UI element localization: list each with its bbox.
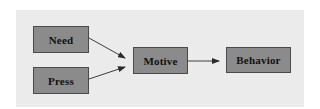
node-motive-label: Motive [143, 55, 177, 67]
node-press-label: Press [48, 75, 74, 87]
node-motive: Motive [133, 47, 188, 74]
node-press: Press [33, 67, 89, 94]
node-behavior-label: Behavior [236, 54, 280, 66]
node-behavior: Behavior [226, 47, 291, 73]
node-need-label: Need [49, 34, 74, 46]
node-need: Need [33, 26, 89, 53]
